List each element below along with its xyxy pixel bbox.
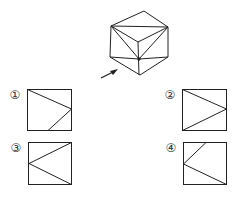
option-2-label: ② (163, 89, 177, 101)
option-4-label: ④ (164, 142, 178, 154)
option-3-label: ③ (9, 142, 23, 154)
option-4-diagram[interactable] (184, 143, 227, 185)
option-1-label: ① (8, 89, 22, 101)
diagram-canvas (0, 0, 240, 197)
option-2-diagram[interactable] (183, 90, 227, 131)
option-3-diagram[interactable] (29, 143, 72, 185)
cube-figure (110, 11, 168, 75)
option-1-diagram[interactable] (28, 90, 72, 131)
view-arrow (101, 69, 118, 78)
